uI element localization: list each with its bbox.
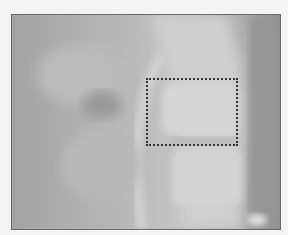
radiograph-frame [11, 14, 281, 230]
region-of-interest-box [146, 78, 238, 146]
